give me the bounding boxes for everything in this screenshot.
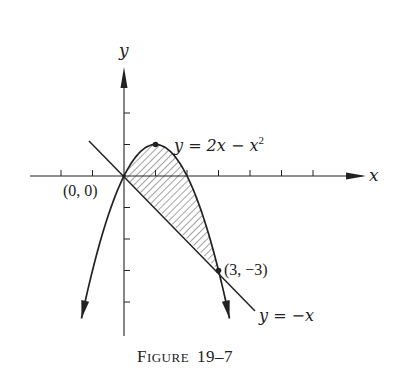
parabola-left-arrow-icon: [81, 300, 89, 318]
shaded-region: [124, 145, 219, 271]
line-label: y = −x: [258, 306, 314, 325]
caption-initial: F: [137, 347, 147, 366]
origin-point: [122, 174, 126, 178]
vertex-point: [153, 142, 159, 148]
intersection-label: (3, −3): [224, 261, 268, 279]
intersection-point: [216, 268, 222, 274]
y-axis-label: y: [118, 40, 129, 60]
x-axis-label: x: [369, 165, 379, 185]
caption-number: 19–7: [197, 347, 233, 366]
x-axis: [30, 170, 366, 180]
curve-label-text: y = 2x − x: [173, 136, 258, 155]
curve-label-exponent: 2: [258, 134, 264, 146]
figure-canvas: y x (0, 0) (3, −3) y = 2x − x2 y = −x FI…: [0, 0, 397, 379]
curve-label: y = 2x − x2: [173, 134, 264, 155]
caption-smallcaps: IGURE: [147, 350, 189, 365]
figure-caption: FIGURE19–7: [137, 347, 233, 366]
origin-label: (0, 0): [63, 182, 98, 200]
y-axis: [121, 67, 131, 336]
y-axis-arrow-icon: [121, 67, 128, 88]
parabola-right-arrow-icon: [222, 300, 230, 318]
x-axis-arrow-icon: [346, 173, 366, 180]
